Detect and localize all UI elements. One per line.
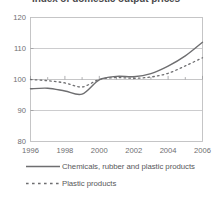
svg-text:2006: 2006 xyxy=(194,146,211,155)
legend-swatch-dashed-icon xyxy=(26,179,60,188)
svg-text:120: 120 xyxy=(13,13,26,22)
svg-text:110: 110 xyxy=(14,44,26,53)
series-line-0 xyxy=(31,42,203,94)
svg-text:100: 100 xyxy=(13,75,26,84)
chart-legend: Chemicals, rubber and plastic products P… xyxy=(0,158,212,192)
data-series-group xyxy=(31,42,203,94)
svg-text:2002: 2002 xyxy=(125,146,142,155)
legend-item-plastic-products: Plastic products xyxy=(0,175,212,192)
svg-text:2004: 2004 xyxy=(160,146,177,155)
legend-label-chemicals-rubber-plastic: Chemicals, rubber and plastic products xyxy=(62,162,195,171)
legend-label-plastic-products: Plastic products xyxy=(62,179,116,188)
x-axis-tick-labels: 199619982000200220042006 xyxy=(22,146,211,155)
y-axis-tick-labels: 8090100110120 xyxy=(13,13,26,146)
legend-swatch-solid-icon xyxy=(26,162,60,171)
svg-text:2000: 2000 xyxy=(91,146,108,155)
svg-text:1996: 1996 xyxy=(22,146,39,155)
legend-item-chemicals-rubber-plastic: Chemicals, rubber and plastic products xyxy=(0,158,212,175)
svg-text:90: 90 xyxy=(18,106,26,115)
svg-text:1998: 1998 xyxy=(56,146,73,155)
chart-figure: Index of domestic output prices 80901001… xyxy=(0,0,212,197)
